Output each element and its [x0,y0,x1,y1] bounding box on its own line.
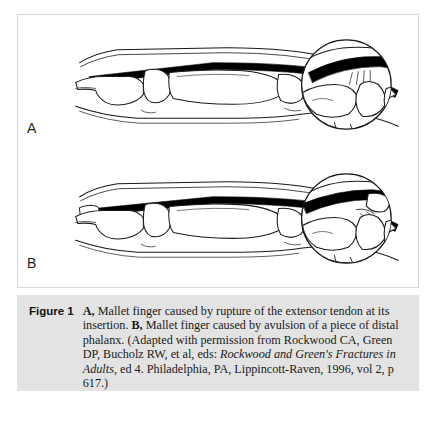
figure-caption-block: Figure 1 A, Mallet finger caused by rupt… [17,295,419,391]
middle-phalanx-b [169,204,283,238]
illustration-panel: A B [17,14,419,288]
panel-label-b: B [27,256,37,270]
middle-phalanx-head-b [143,203,170,236]
middle-phalanx-head-a [143,69,170,102]
caption-source-tail: , ed 4. Philadelphia, PA, Lippincott-Rav… [83,362,394,390]
figure-root: A B Figure 1 A, Mallet finger caused by … [0,0,448,434]
distal-phalanx-a [76,77,144,105]
caption-panel-b-marker: B, [131,318,142,332]
distal-phalanx-b [76,211,144,239]
panel-b-inset [302,174,416,281]
pip-joint-head-a [277,74,305,103]
caption-panel-a-marker: A, [83,304,95,318]
figure-number-label: Figure 1 [29,304,83,318]
figure-caption-text: A, Mallet finger caused by rupture of th… [83,304,407,390]
panel-a-inset [302,40,416,148]
mallet-finger-illustration [18,15,418,287]
inset-avulsed-fragment-b [366,193,389,212]
pip-joint-head-b [277,208,305,237]
panel-label-a: A [27,121,37,135]
middle-phalanx-a [169,70,283,104]
